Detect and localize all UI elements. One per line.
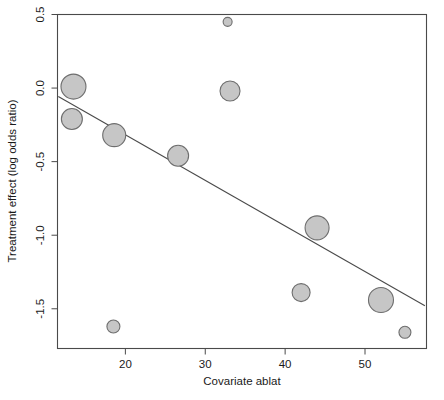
data-point-bubble <box>168 145 189 166</box>
data-point-bubble <box>399 326 411 338</box>
y-tick-label: -0.5 <box>34 152 46 172</box>
data-point-bubble <box>103 124 126 147</box>
scatter-plot-figure: 0.50.0-0.5-1.0-1.5 20304050 Covariate ab… <box>0 0 444 400</box>
x-tick-label: 40 <box>279 358 292 370</box>
x-tick-label: 30 <box>199 358 212 370</box>
data-point-bubble <box>368 287 393 312</box>
y-tick-label: 0.0 <box>34 80 46 96</box>
plot-canvas: 0.50.0-0.5-1.0-1.5 20304050 Covariate ab… <box>0 0 444 400</box>
data-point-bubble <box>61 74 86 99</box>
y-axis: 0.50.0-0.5-1.0-1.5 <box>34 7 57 319</box>
data-point-bubble <box>61 108 82 129</box>
y-tick-label: -1.5 <box>34 299 46 319</box>
y-axis-title: Treatment effect (log odds ratio) <box>6 99 18 262</box>
data-point-bubble <box>107 320 120 333</box>
data-point-bubble <box>305 216 329 240</box>
x-axis-title: Covariate ablat <box>203 375 281 387</box>
data-point-group <box>61 17 411 338</box>
data-point-bubble <box>223 17 232 26</box>
data-point-bubble <box>220 81 240 101</box>
y-tick-label: -1.0 <box>34 225 46 245</box>
y-tick-label: 0.5 <box>34 7 46 23</box>
x-axis: 20304050 <box>119 349 371 370</box>
x-tick-label: 50 <box>359 358 372 370</box>
x-tick-label: 20 <box>119 358 132 370</box>
data-point-bubble <box>292 284 310 302</box>
